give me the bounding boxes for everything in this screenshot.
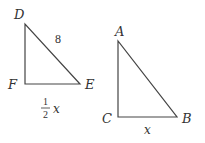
side-cb-label: x — [144, 123, 151, 137]
triangle-abc: A C B x — [102, 24, 192, 137]
side-fe-numerator: 1 — [43, 96, 48, 107]
triangle-def: D F E 8 1 2 x — [7, 7, 95, 120]
side-fe-variable: x — [53, 102, 60, 116]
vertex-e-label: E — [84, 77, 95, 92]
side-de-label: 8 — [55, 32, 61, 46]
side-fe-denominator: 2 — [43, 109, 48, 120]
triangle-abc-shape — [118, 41, 177, 117]
vertex-f-label: F — [7, 77, 18, 92]
diagram-canvas: D F E 8 1 2 x A C B x — [0, 0, 205, 143]
vertex-d-label: D — [13, 7, 25, 22]
vertex-a-label: A — [114, 24, 124, 39]
triangle-def-shape — [25, 24, 80, 84]
vertex-c-label: C — [102, 111, 112, 126]
vertex-b-label: B — [181, 111, 192, 126]
